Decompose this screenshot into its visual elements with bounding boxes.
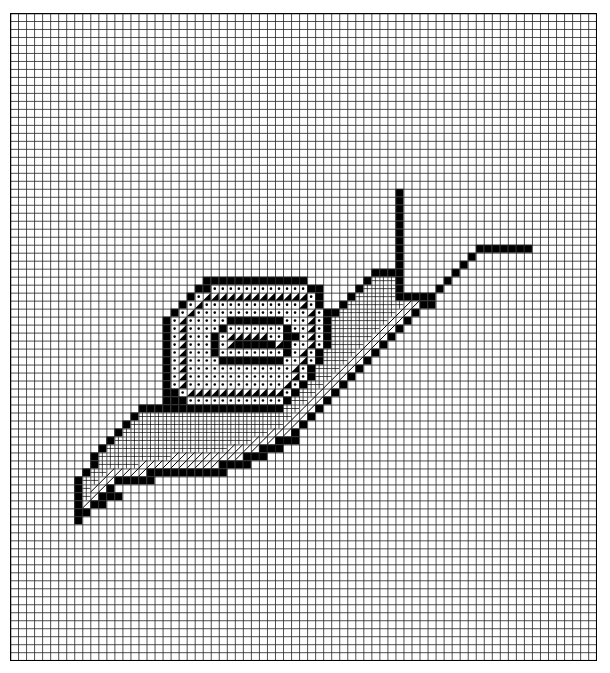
stitch-fine-hatch bbox=[187, 428, 195, 436]
stitch-half-triangle bbox=[307, 309, 315, 317]
stitch-diagonal-stripe bbox=[179, 452, 187, 460]
stitch-half-triangle bbox=[211, 293, 219, 301]
stitch-dot bbox=[310, 359, 313, 362]
stitch-dot bbox=[221, 287, 224, 290]
stitch-fine-hatch bbox=[323, 365, 331, 373]
stitch-dot bbox=[294, 311, 297, 314]
stitch-half-triangle bbox=[259, 293, 267, 301]
stitch-fine-hatch bbox=[387, 309, 395, 317]
stitch-diagonal-stripe bbox=[138, 468, 146, 476]
stitch-diagonal-stripe bbox=[90, 492, 98, 500]
stitch-fine-hatch bbox=[130, 420, 138, 428]
stitch-dot bbox=[197, 327, 200, 330]
stitch-solid-black bbox=[163, 468, 171, 476]
stitch-dot bbox=[205, 319, 208, 322]
stitch-dot bbox=[205, 303, 208, 306]
stitch-dot bbox=[262, 287, 265, 290]
stitch-fine-hatch bbox=[130, 436, 138, 444]
stitch-solid-black bbox=[211, 349, 219, 357]
stitch-dot bbox=[286, 359, 289, 362]
stitch-dot bbox=[173, 351, 176, 354]
chart-title: Snail cross-stitch chart bbox=[0, 21, 1, 22]
stitch-solid-black bbox=[163, 389, 171, 397]
stitch-fine-hatch bbox=[130, 444, 138, 452]
stitch-diagonal-stripe bbox=[187, 460, 195, 468]
stitch-solid-black bbox=[243, 317, 251, 325]
stitch-solid-black bbox=[82, 468, 90, 476]
stitch-solid-black bbox=[90, 460, 98, 468]
stitch-fine-hatch bbox=[122, 436, 130, 444]
stitch-solid-black bbox=[211, 341, 219, 349]
stitch-solid-black bbox=[323, 341, 331, 349]
stitch-solid-black bbox=[444, 277, 452, 285]
stitch-fine-hatch bbox=[187, 420, 195, 428]
stitch-diagonal-stripe bbox=[251, 436, 259, 444]
stitch-diagonal-stripe bbox=[283, 420, 291, 428]
stitch-fine-hatch bbox=[82, 476, 90, 484]
stitch-diagonal-stripe bbox=[339, 365, 347, 373]
stitch-fine-hatch bbox=[379, 285, 387, 293]
stitch-dot bbox=[278, 351, 281, 354]
stitch-solid-black bbox=[267, 341, 275, 349]
stitch-fine-hatch bbox=[130, 460, 138, 468]
stitch-solid-black bbox=[130, 476, 138, 484]
stitch-fine-hatch bbox=[211, 428, 219, 436]
stitch-fine-hatch bbox=[147, 420, 155, 428]
stitch-diagonal-stripe bbox=[106, 468, 114, 476]
stitch-diagonal-stripe bbox=[259, 436, 267, 444]
stitch-fine-hatch bbox=[395, 301, 403, 309]
stitch-fine-hatch bbox=[243, 412, 251, 420]
stitch-fine-hatch bbox=[315, 381, 323, 389]
stitch-fine-hatch bbox=[339, 349, 347, 357]
stitch-fine-hatch bbox=[347, 317, 355, 325]
stitch-solid-black bbox=[331, 309, 339, 317]
stitch-dot bbox=[205, 343, 208, 346]
stitch-diagonal-stripe bbox=[267, 436, 275, 444]
stitch-dot bbox=[246, 367, 249, 370]
stitch-dot bbox=[270, 367, 273, 370]
stitch-solid-black bbox=[90, 452, 98, 460]
stitch-solid-black bbox=[283, 277, 291, 285]
stitch-fine-hatch bbox=[171, 444, 179, 452]
stitch-dot bbox=[238, 383, 241, 386]
stitch-solid-black bbox=[74, 500, 82, 508]
stitch-solid-black bbox=[323, 333, 331, 341]
stitch-dot bbox=[221, 319, 224, 322]
stitch-diagonal-stripe bbox=[331, 373, 339, 381]
stitch-solid-black bbox=[163, 349, 171, 357]
stitch-fine-hatch bbox=[211, 420, 219, 428]
stitch-fine-hatch bbox=[387, 285, 395, 293]
stitch-dot bbox=[270, 383, 273, 386]
stitch-half-triangle bbox=[267, 293, 275, 301]
stitch-solid-black bbox=[195, 285, 203, 293]
stitch-fine-hatch bbox=[363, 301, 371, 309]
stitch-fine-hatch bbox=[106, 452, 114, 460]
stitch-solid-black bbox=[315, 357, 323, 365]
stitch-diagonal-stripe bbox=[171, 460, 179, 468]
stitch-fine-hatch bbox=[347, 349, 355, 357]
stitch-dot bbox=[221, 399, 224, 402]
stitch-dot bbox=[294, 351, 297, 354]
stitch-dot bbox=[221, 351, 224, 354]
stitch-half-triangle bbox=[179, 325, 187, 333]
stitch-dot bbox=[238, 375, 241, 378]
stitch-dot bbox=[238, 367, 241, 370]
stitch-fine-hatch bbox=[195, 412, 203, 420]
stitch-solid-black bbox=[114, 476, 122, 484]
stitch-dot bbox=[205, 383, 208, 386]
stitch-fine-hatch bbox=[195, 436, 203, 444]
pattern-cells bbox=[74, 189, 532, 525]
stitch-diagonal-stripe bbox=[395, 317, 403, 325]
stitch-dot bbox=[197, 351, 200, 354]
stitch-diagonal-stripe bbox=[379, 333, 387, 341]
stitch-dot bbox=[310, 303, 313, 306]
stitch-diagonal-stripe bbox=[339, 373, 347, 381]
stitch-fine-hatch bbox=[122, 452, 130, 460]
stitch-diagonal-stripe bbox=[98, 484, 106, 492]
stitch-fine-hatch bbox=[291, 405, 299, 413]
stitch-fine-hatch bbox=[203, 428, 211, 436]
stitch-dot bbox=[213, 359, 216, 362]
stitch-diagonal-stripe bbox=[299, 412, 307, 420]
stitch-solid-black bbox=[283, 333, 291, 341]
stitch-solid-black bbox=[299, 381, 307, 389]
